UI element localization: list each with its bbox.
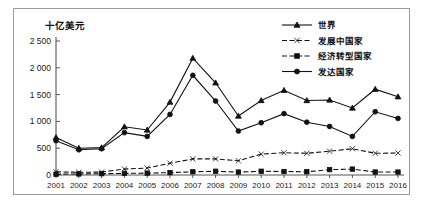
y-axis-tick-label: 500	[37, 143, 51, 153]
data-point-marker	[77, 172, 81, 176]
series-circle	[54, 73, 401, 152]
data-point-marker	[305, 170, 309, 174]
line-chart: 十亿美元 05001 0001 5002 0002 500 2001200220…	[14, 9, 409, 194]
data-point-marker	[99, 146, 104, 151]
data-point-marker	[395, 150, 400, 155]
data-point-marker	[282, 111, 287, 116]
x-axis-tick-label: 2002	[70, 181, 88, 190]
legend-item-4: 发达国家	[282, 67, 354, 77]
x-axis-tick-label: 2014	[344, 181, 362, 190]
x-axis-tick-label: 2015	[366, 181, 384, 190]
x-axis-tick-label: 2008	[207, 181, 225, 190]
x-axis-tick-label: 2011	[275, 181, 293, 190]
data-point-marker	[396, 116, 401, 121]
y-axis-tick-label: 2 500	[30, 36, 52, 46]
x-axis-tick-label: 2013	[321, 181, 339, 190]
x-axis-tick-label: 2005	[138, 181, 156, 190]
series-line	[56, 75, 398, 150]
data-point-marker	[54, 172, 58, 176]
data-point-marker	[304, 120, 309, 125]
data-point-marker	[396, 170, 400, 174]
data-point-marker	[236, 170, 240, 174]
x-axis-tick-label: 2012	[298, 181, 316, 190]
y-axis-unit-text: 十亿美元	[45, 20, 85, 31]
data-point-marker	[145, 171, 149, 175]
data-point-marker	[294, 69, 299, 74]
x-axis: 2001200220032004200520062007200820092010…	[47, 175, 407, 190]
chart-figure: 十亿美元 05001 0001 5002 0002 500 2001200220…	[13, 8, 410, 195]
series-x	[53, 146, 400, 175]
y-axis-unit-label: 十亿美元	[45, 20, 85, 31]
data-point-marker	[259, 169, 263, 173]
data-point-marker	[167, 99, 173, 104]
data-point-marker	[213, 169, 217, 173]
x-axis-tick-label: 2001	[47, 181, 65, 190]
data-point-marker	[190, 55, 196, 60]
x-axis-tick-label: 2010	[252, 181, 270, 190]
x-axis-tick-label: 2007	[184, 181, 202, 190]
y-axis-tick-label: 1 500	[30, 90, 52, 100]
data-point-marker	[373, 109, 378, 114]
data-point-marker	[99, 171, 103, 175]
data-point-marker	[145, 134, 150, 139]
data-point-marker	[168, 112, 173, 117]
data-point-marker	[168, 170, 172, 174]
x-axis-tick-label: 2003	[93, 181, 111, 190]
data-point-marker	[350, 134, 355, 139]
data-point-marker	[213, 99, 218, 104]
series-line	[56, 169, 398, 174]
data-point-marker	[54, 138, 59, 143]
data-point-marker	[327, 124, 332, 129]
legend-item-1: 世界	[282, 20, 336, 30]
data-point-marker	[122, 171, 126, 175]
data-point-marker	[350, 167, 354, 171]
data-point-marker	[373, 170, 377, 174]
data-point-marker	[327, 167, 331, 171]
y-axis-tick-label: 2 000	[30, 63, 52, 73]
y-axis-tick-label: 0	[46, 170, 51, 180]
data-point-marker	[259, 120, 264, 125]
data-point-marker	[372, 86, 378, 91]
data-point-marker	[122, 124, 128, 129]
legend-item-2: 发展中国家	[282, 36, 363, 46]
x-axis-tick-label: 2016	[389, 181, 407, 190]
x-axis-tick-label: 2009	[230, 181, 248, 190]
data-point-marker	[281, 87, 287, 92]
data-point-marker	[282, 169, 286, 173]
data-point-marker	[295, 54, 300, 59]
legend-label: 发展中国家	[317, 36, 363, 46]
data-point-marker	[122, 130, 127, 135]
data-point-marker	[76, 147, 81, 152]
legend-label: 经济转型国家	[318, 51, 372, 61]
y-axis: 05001 0001 5002 0002 500	[30, 36, 60, 180]
data-point-marker	[190, 73, 195, 78]
y-axis-tick-label: 1 000	[30, 116, 52, 126]
data-point-marker	[191, 170, 195, 174]
series-line	[56, 149, 398, 173]
legend-label: 发达国家	[317, 67, 354, 77]
x-axis-tick-label: 2006	[161, 181, 179, 190]
chart-legend: 世界发展中国家经济转型国家发达国家	[282, 20, 372, 76]
x-axis-tick-label: 2004	[116, 181, 134, 190]
legend-item-3: 经济转型国家	[282, 51, 372, 61]
data-point-marker	[236, 129, 241, 134]
legend-label: 世界	[318, 20, 336, 30]
